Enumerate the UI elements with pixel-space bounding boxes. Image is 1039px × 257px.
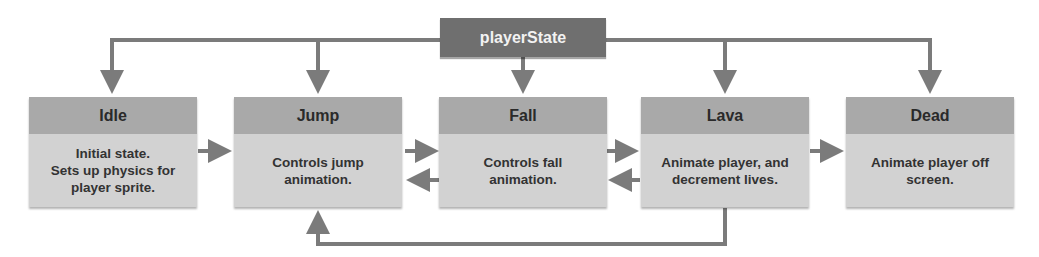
state-idle-description: Initial state. Sets up physics for playe…: [29, 134, 197, 207]
state-dead-title: Dead: [846, 97, 1014, 134]
state-lava-title: Lava: [641, 97, 809, 134]
state-jump: Jump Controls jump animation.: [234, 97, 402, 207]
state-dead-description: Animate player off screen.: [846, 134, 1014, 207]
state-idle: Idle Initial state. Sets up physics for …: [29, 97, 197, 207]
state-lava-description: Animate player, and decrement lives.: [641, 134, 809, 207]
player-state-label: playerState: [480, 29, 566, 47]
state-fall-description: Controls fall animation.: [439, 134, 607, 207]
state-diagram: playerState Idle Initial state. Sets up …: [0, 0, 1039, 257]
arrow-root-to-dead: [606, 40, 930, 82]
arrow-root-to-idle: [112, 40, 440, 82]
state-idle-title: Idle: [29, 97, 197, 134]
state-fall: Fall Controls fall animation.: [439, 97, 607, 207]
player-state-node: playerState: [440, 18, 606, 57]
state-jump-title: Jump: [234, 97, 402, 134]
arrow-lava-to-jump: [318, 208, 725, 244]
state-dead: Dead Animate player off screen.: [846, 97, 1014, 207]
state-lava: Lava Animate player, and decrement lives…: [641, 97, 809, 207]
state-jump-description: Controls jump animation.: [234, 134, 402, 207]
state-fall-title: Fall: [439, 97, 607, 134]
